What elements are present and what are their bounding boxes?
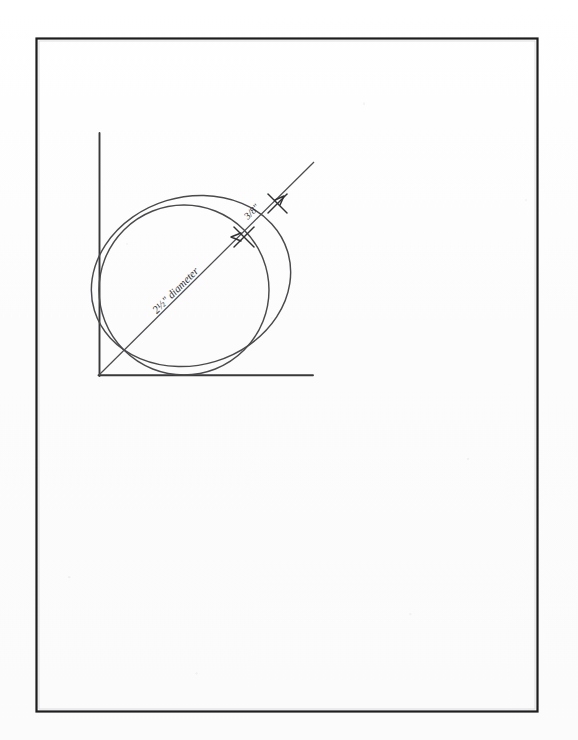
technical-drawing-figure: 2½" diameter 3/8" <box>0 0 578 740</box>
diameter-label-group: 2½" diameter <box>150 264 202 316</box>
diameter-dimension-line <box>99 162 314 375</box>
scanned-drawing-page: 2½" diameter 3/8" <box>0 0 578 740</box>
marker-outer-intersection <box>268 194 287 213</box>
axis-group <box>99 133 314 376</box>
diameter-label: 2½" diameter <box>150 264 202 316</box>
